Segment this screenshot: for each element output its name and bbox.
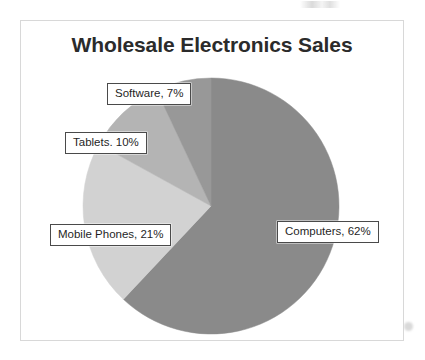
scan-artifact [404,322,413,331]
chart-frame: Wholesale Electronics Sales Software, 7%… [20,20,404,341]
pie-plot-area [21,21,405,342]
data-label-mobile-phones: Mobile Phones, 21% [50,224,171,246]
data-label-tablets: Tablets. 10% [65,132,147,154]
scan-artifact [300,1,340,8]
data-label-computers: Computers, 62% [277,221,379,243]
pie-chart [21,21,405,342]
data-label-software: Software, 7% [107,83,191,105]
